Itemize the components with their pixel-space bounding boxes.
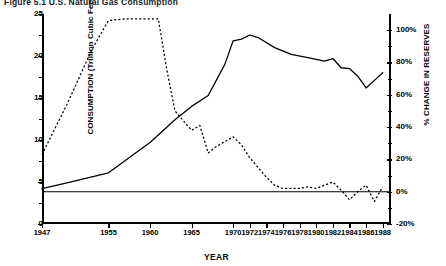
right-tick-label-40%: 40% xyxy=(396,123,438,131)
y-axis-right-title: % CHANGE IN RESERVES xyxy=(422,0,431,155)
right-tick-label-80%: 80% xyxy=(396,58,438,66)
left-tick-label-10: 10 xyxy=(3,136,43,144)
x-tick-label-1947: 1947 xyxy=(22,229,62,237)
left-tick-label-20: 20 xyxy=(3,52,43,60)
x-tick-label-1955: 1955 xyxy=(88,229,128,237)
plot-area: CONSUMPTION (Trillion Cubic Feet) % CHAN… xyxy=(42,14,391,224)
chart-figure: Figure 5.1 U.S. Natural Gas Consumption … xyxy=(0,0,446,266)
figure-title: Figure 5.1 U.S. Natural Gas Consumption xyxy=(4,0,304,7)
reserves-change-line xyxy=(42,19,383,202)
left-tick-label-5: 5 xyxy=(3,178,43,186)
series-canvas xyxy=(42,14,391,224)
left-tick-label-25: 25 xyxy=(3,10,43,18)
left-tick-label-15: 15 xyxy=(3,94,43,102)
consumption-line xyxy=(42,35,383,189)
right-tick-label-100%: 100% xyxy=(396,26,438,34)
right-tick-label-60%: 60% xyxy=(396,91,438,99)
x-tick-label-1988: 1988 xyxy=(363,229,403,237)
x-axis-title: YEAR xyxy=(42,252,391,262)
left-tick-label-0: 0 xyxy=(3,220,43,228)
right-tick--20% xyxy=(387,224,392,225)
x-tick-label-1960: 1960 xyxy=(130,229,170,237)
right-tick-label-20%: 20% xyxy=(396,155,438,163)
x-tick-label-1965: 1965 xyxy=(172,229,212,237)
right-tick-label--20%: -20% xyxy=(396,220,438,228)
right-tick-label-0%: 0% xyxy=(396,188,438,196)
